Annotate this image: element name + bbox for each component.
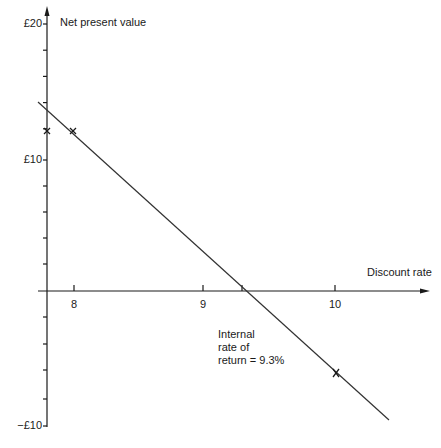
y-axis-title: Net present value — [60, 16, 146, 29]
y-tick-label-10: £10 — [2, 153, 42, 166]
x-axis — [38, 285, 422, 291]
x-tick-label-9: 9 — [193, 298, 213, 311]
y-tick-label-neg10: −£10 — [2, 419, 42, 432]
npv-chart — [0, 0, 441, 448]
x-tick-label-8: 8 — [64, 298, 84, 311]
marker-x-icon-10 — [333, 369, 339, 377]
y-axis — [43, 12, 47, 427]
y-tick-label-20: £20 — [2, 17, 42, 30]
x-axis-title: Discount rate — [367, 266, 432, 279]
irr-annotation: Internal rate of return = 9.3% — [218, 328, 284, 367]
data-markers — [44, 128, 339, 377]
x-tick-label-10: 10 — [325, 298, 345, 311]
x-axis-arrow-icon — [420, 289, 430, 294]
y-axis-arrow-icon — [45, 6, 50, 16]
